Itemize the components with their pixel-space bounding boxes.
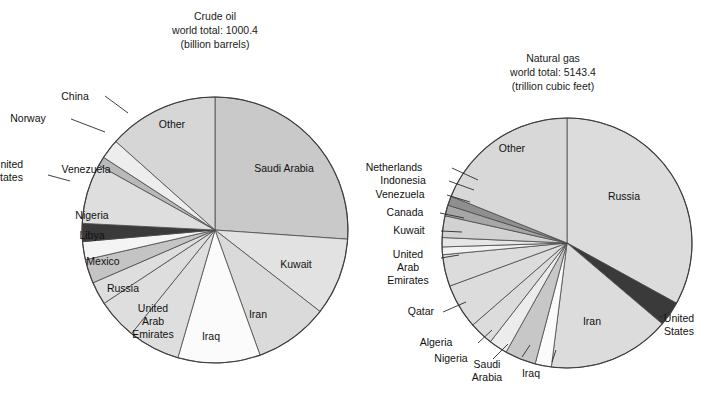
label-china: China: [61, 90, 89, 102]
two-pie-figure: Crude oil world total: 1000.4 (billion b…: [0, 0, 727, 413]
label-canada: Canada: [387, 206, 424, 218]
label-united-states: UnitedStates: [664, 312, 695, 337]
label-indonesia: Indonesia: [380, 174, 426, 186]
label-kuwait: Kuwait: [393, 224, 425, 236]
label-algeria: Algeria: [420, 336, 453, 348]
label-mexico: Mexico: [86, 255, 119, 267]
label-libya: Libya: [79, 229, 104, 241]
label-nigeria: Nigeria: [75, 209, 108, 221]
natural-gas-title-line3: (trillion cubic feet): [512, 80, 594, 92]
label-iraq: Iraq: [202, 330, 220, 342]
crude-oil-title-block: Crude oil world total: 1000.4 (billion b…: [171, 10, 258, 50]
crude-oil-title-line1: Crude oil: [194, 10, 236, 22]
label-venezuela: Venezuela: [61, 163, 110, 175]
label-kuwait: Kuwait: [280, 258, 312, 270]
label-united-arab-emirates: UnitedArabEmirates: [387, 248, 428, 286]
leader-line-china: [105, 96, 128, 113]
figure-canvas: Crude oil world total: 1000.4 (billion b…: [0, 0, 727, 413]
label-russia: Russia: [608, 190, 640, 202]
label-venezuela: Venezuela: [375, 188, 424, 200]
natural-gas-title-block: Natural gas world total: 5143.4 (trillio…: [509, 52, 596, 92]
natural-gas-title-line1: Natural gas: [526, 52, 580, 64]
label-norway: Norway: [10, 112, 46, 124]
natural-gas-pie: [442, 118, 692, 368]
natural-gas-title-line2: world total: 5143.4: [509, 66, 596, 78]
label-other: Other: [159, 118, 186, 130]
crude-oil-title-line2: world total: 1000.4: [171, 24, 258, 36]
label-iran: Iran: [583, 315, 601, 327]
label-saudi-arabia: SaudiArabia: [472, 358, 503, 383]
label-netherlands: Netherlands: [366, 161, 423, 173]
crude-oil-pie: [82, 97, 348, 363]
label-nigeria: Nigeria: [434, 352, 467, 364]
label-qatar: Qatar: [408, 305, 435, 317]
label-saudi-arabia: Saudi Arabia: [254, 162, 314, 174]
label-other: Other: [499, 142, 526, 154]
crude-oil-title-line3: (billion barrels): [181, 38, 250, 50]
leader-line-united-states: [48, 175, 70, 181]
label-iran: Iran: [249, 308, 267, 320]
label-russia: Russia: [107, 282, 139, 294]
leader-line-norway: [71, 119, 105, 132]
label-united-states: UnitedStates: [0, 158, 23, 183]
label-iraq: Iraq: [522, 367, 540, 379]
